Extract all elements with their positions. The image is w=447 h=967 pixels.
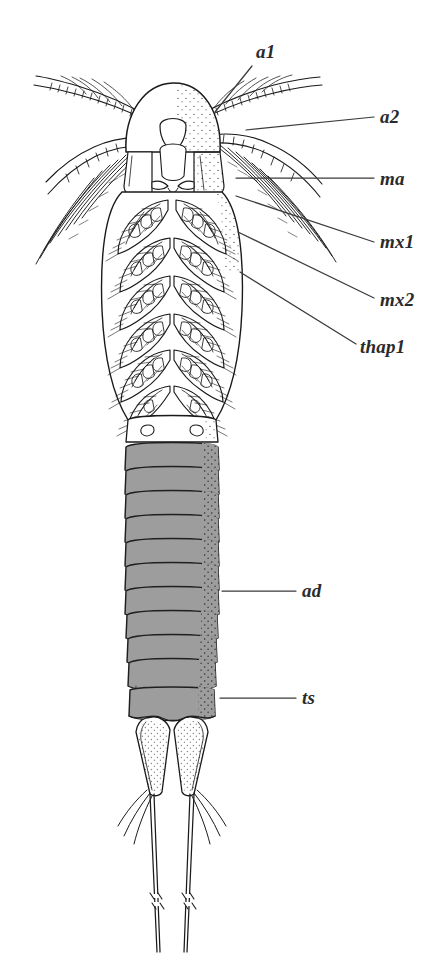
label-ma[interactable]: ma [380, 169, 405, 188]
right-antennule [198, 75, 322, 121]
figure-root: a1 a2 ma mx1 mx2 thap1 ad ts [0, 0, 447, 967]
leader-a2 [246, 117, 374, 130]
caudal-setae [118, 790, 226, 952]
leader-mx2 [238, 232, 374, 298]
label-mx1[interactable]: mx1 [380, 232, 414, 251]
leader-thap1 [240, 272, 356, 344]
cephalon [126, 83, 220, 152]
caudal-rami [136, 717, 208, 796]
abdomen-segments [125, 443, 219, 693]
leader-mx1 [236, 196, 374, 242]
seta-break-marks [148, 896, 198, 904]
label-a1[interactable]: a1 [256, 42, 275, 61]
telson [129, 687, 215, 721]
label-thap1[interactable]: thap1 [360, 337, 405, 356]
genital-segment [126, 416, 218, 443]
thorax-outline [102, 192, 243, 420]
leader-lines [215, 66, 374, 698]
label-mx2[interactable]: mx2 [380, 290, 414, 309]
label-a2[interactable]: a2 [380, 107, 399, 126]
anatomy-illustration [0, 0, 447, 967]
mandible-region [124, 144, 224, 197]
illustration-ink [34, 75, 336, 952]
label-ad[interactable]: ad [302, 581, 321, 600]
label-ts[interactable]: ts [302, 688, 315, 707]
